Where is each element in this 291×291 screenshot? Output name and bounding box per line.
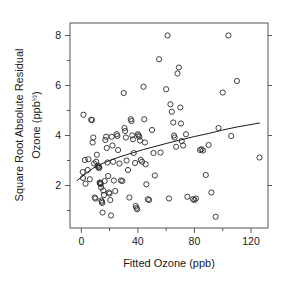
x-tick-label: 120: [242, 235, 260, 247]
y-tick-label: 6: [55, 79, 61, 91]
x-tick-label: 40: [132, 235, 144, 247]
scale-location-plot-figure: 04080120 2468 Fitted Ozone (ppb) Square …: [0, 0, 291, 291]
y-axis-title-line2: Ozone (ppb½): [30, 91, 43, 158]
y-tick-label: 4: [55, 129, 61, 141]
y-axis-title-line2-text: Ozone (ppb: [30, 101, 42, 158]
x-tick-label: 80: [189, 235, 201, 247]
chart-canvas: 04080120 2468 Fitted Ozone (ppb) Square …: [0, 0, 291, 291]
y-axis-title-line2-close: ): [30, 91, 42, 95]
y-axis-title-line1: Square Root Absolute Residual: [13, 49, 25, 202]
x-tick-label: 0: [78, 235, 84, 247]
x-axis-title: Fitted Ozone (ppb): [123, 257, 215, 269]
y-tick-label: 2: [55, 179, 61, 191]
y-tick-label: 8: [55, 29, 61, 41]
